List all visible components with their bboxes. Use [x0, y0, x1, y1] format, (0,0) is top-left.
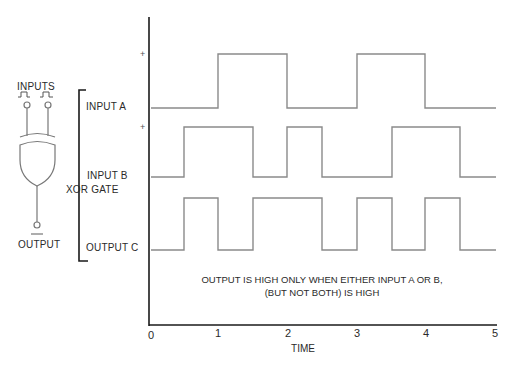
waveform-output-c: [151, 198, 496, 250]
x-tick-1: 1: [215, 327, 221, 339]
x-tick-5: 5: [492, 327, 498, 339]
signal-label-input-a: INPUT A: [86, 101, 126, 112]
plus-marker-a: +: [140, 49, 145, 59]
signal-label-input-b: INPUT B: [87, 170, 128, 181]
annotation-line-1: OUTPUT IS HIGH ONLY WHEN EITHER INPUT A …: [172, 273, 472, 286]
x-tick-2: 2: [285, 327, 291, 339]
plus-marker-b: +: [140, 122, 145, 132]
signal-label-output-c: OUTPUT C: [86, 242, 139, 253]
gate-label: XOR GATE: [66, 184, 119, 195]
waveform-input-b: [151, 127, 496, 177]
x-tick-4: 4: [423, 327, 429, 339]
annotation-note: OUTPUT IS HIGH ONLY WHEN EITHER INPUT A …: [172, 273, 472, 299]
waveform-input-a: [151, 54, 496, 108]
annotation-line-2: (BUT NOT BOTH) IS HIGH: [172, 286, 472, 299]
x-tick-0: 0: [148, 329, 154, 341]
x-axis-label: TIME: [291, 343, 315, 354]
inputs-label: INPUTS: [17, 81, 55, 92]
input-pulse-icon: [18, 92, 53, 97]
x-tick-3: 3: [354, 327, 360, 339]
output-label: OUTPUT: [18, 239, 60, 250]
xor-gate-icon: [20, 102, 55, 234]
